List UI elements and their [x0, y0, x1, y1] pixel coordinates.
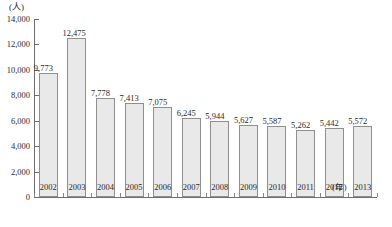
y-tick-mark: [35, 197, 39, 198]
bar: 12,475: [67, 38, 86, 197]
x-tick-mark: [63, 193, 64, 197]
y-axis-unit-label: (人): [9, 2, 24, 12]
x-tick-mark: [291, 193, 292, 197]
bar-value-label: 5,442: [320, 118, 339, 128]
bar-value-label: 5,944: [205, 111, 224, 121]
y-tick-label: 4,000: [11, 142, 30, 151]
x-tick-mark: [148, 193, 149, 197]
x-axis-label: 2004: [97, 182, 114, 192]
x-axis-label: 2013: [354, 182, 371, 192]
x-axis-label: 2011: [297, 182, 314, 192]
x-axis-line: [34, 197, 377, 198]
x-axis-label: 2009: [240, 182, 257, 192]
x-axis-label: 2010: [268, 182, 285, 192]
y-tick-label: 6,000: [11, 116, 30, 125]
y-tick-label: 12,000: [7, 40, 30, 49]
y-tick-label: 14,000: [7, 15, 30, 24]
y-tick-mark: [35, 19, 39, 20]
y-tick-label: 8,000: [11, 91, 30, 100]
x-tick-mark: [348, 193, 349, 197]
bar-value-label: 5,572: [348, 116, 367, 126]
x-axis-label: 2007: [183, 182, 200, 192]
x-tick-mark: [34, 193, 35, 197]
x-tick-mark: [206, 193, 207, 197]
x-axis-label: 2002: [40, 182, 57, 192]
x-axis-unit-label: (年): [332, 182, 347, 192]
x-tick-mark: [234, 193, 235, 197]
x-axis-label: 2003: [68, 182, 85, 192]
plot-area: 02,0004,0006,0008,00010,00012,00014,000 …: [34, 19, 377, 198]
x-tick-mark: [377, 193, 378, 197]
x-tick-mark: [91, 193, 92, 197]
bar-value-label: 7,075: [148, 97, 167, 107]
bar-value-label: 5,262: [291, 120, 310, 130]
x-tick-mark: [177, 193, 178, 197]
x-tick-mark: [263, 193, 264, 197]
y-tick-mark: [35, 44, 39, 45]
y-tick-label: 10,000: [7, 65, 30, 74]
y-tick-label: 0: [26, 193, 30, 202]
bar-value-label: 9,773: [34, 63, 53, 73]
y-tick-label: 2,000: [11, 167, 30, 176]
x-axis-label: 2008: [211, 182, 228, 192]
bar: 9,773: [39, 73, 58, 197]
bar-value-label: 6,245: [177, 108, 196, 118]
x-tick-mark: [120, 193, 121, 197]
bar-value-label: 7,413: [120, 93, 139, 103]
bar-value-label: 12,475: [62, 28, 85, 38]
x-axis-label: 2006: [154, 182, 171, 192]
bar-chart: (人) 02,0004,0006,0008,00010,00012,00014,…: [0, 0, 392, 227]
bar-value-label: 5,587: [262, 116, 281, 126]
x-tick-mark: [320, 193, 321, 197]
bar-value-label: 7,778: [91, 88, 110, 98]
x-axis-label: 2005: [126, 182, 143, 192]
bar-value-label: 5,627: [234, 115, 253, 125]
